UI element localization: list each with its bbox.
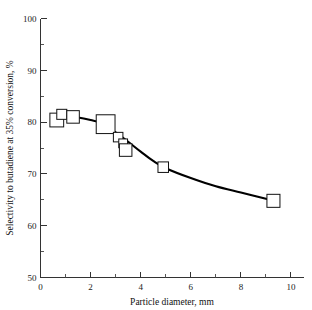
y-tick-label: 80 xyxy=(28,117,38,127)
x-tick-label: 0 xyxy=(38,282,43,292)
data-point-marker xyxy=(267,194,280,207)
x-axis-title: Particle diameter, mm xyxy=(130,297,214,307)
data-point-marker xyxy=(119,144,132,157)
data-point-marker xyxy=(67,111,80,124)
y-tick-label: 90 xyxy=(28,66,38,76)
x-axis-tick-labels: 0246810 xyxy=(38,282,296,292)
x-tick-label: 10 xyxy=(286,282,296,292)
y-tick-label: 100 xyxy=(23,14,37,24)
data-point-marker xyxy=(57,109,67,119)
y-tick-label: 60 xyxy=(28,221,38,231)
y-tick-label: 50 xyxy=(28,273,38,283)
y-axis-tick-labels: 5060708090100 xyxy=(23,14,37,283)
chart-plot-area: 5060708090100 0246810 Particle diameter,… xyxy=(0,0,312,310)
y-tick-label: 70 xyxy=(28,169,38,179)
x-tick-label: 4 xyxy=(138,282,143,292)
x-axis-ticks xyxy=(41,272,291,278)
chart-container: 5060708090100 0246810 Particle diameter,… xyxy=(0,0,312,310)
data-point-marker xyxy=(96,115,115,134)
x-tick-label: 2 xyxy=(88,282,93,292)
data-point-marker xyxy=(158,162,169,173)
y-axis-ticks xyxy=(41,19,47,278)
axes-group xyxy=(41,19,304,278)
series-curve-line xyxy=(54,116,276,200)
x-tick-label: 6 xyxy=(189,282,194,292)
x-tick-label: 8 xyxy=(239,282,244,292)
y-axis-title: Selectivity to butadiene at 35% conversi… xyxy=(5,60,15,236)
